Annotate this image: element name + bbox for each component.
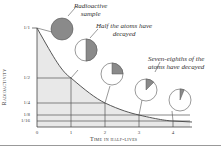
annotation-seven-eighths: Seven-eighths of the atoms have decayed <box>148 55 204 71</box>
annotation-half-decayed: Half the atoms have decayed <box>96 22 152 38</box>
x-tick-4: 4 <box>169 130 177 135</box>
annotation-text: decayed <box>96 30 152 38</box>
annotation-text: Half the atoms have <box>96 22 152 30</box>
pie-half <box>75 39 97 61</box>
pie-full <box>51 18 73 40</box>
annotation-radioactive-sample: Radioactive sample <box>74 2 107 18</box>
x-tick-1: 1 <box>67 130 75 135</box>
annotation-text: sample <box>74 10 107 18</box>
pie-sixteenth <box>169 89 191 111</box>
x-tick-0: 0 <box>33 130 41 135</box>
pie-eighth <box>135 79 157 101</box>
pie-quarter <box>101 63 123 85</box>
y-tick-1-16: 1/16 <box>16 118 30 123</box>
annotation-text: Seven-eighths of the <box>148 55 204 63</box>
y-tick-1-2: 1/2 <box>16 75 30 80</box>
annotation-text: atoms have decayed <box>148 63 204 71</box>
y-tick-1-8: 1/8 <box>16 112 30 117</box>
x-axis-title: Time in half-lives <box>90 136 137 142</box>
y-axis-title: Radioactivity <box>1 69 7 106</box>
y-tick-1: 1/1 <box>16 25 30 30</box>
divider <box>0 145 221 146</box>
annotation-text: Radioactive <box>74 2 107 10</box>
x-tick-3: 3 <box>135 130 143 135</box>
x-tick-2: 2 <box>101 130 109 135</box>
y-tick-1-4: 1/4 <box>16 100 30 105</box>
